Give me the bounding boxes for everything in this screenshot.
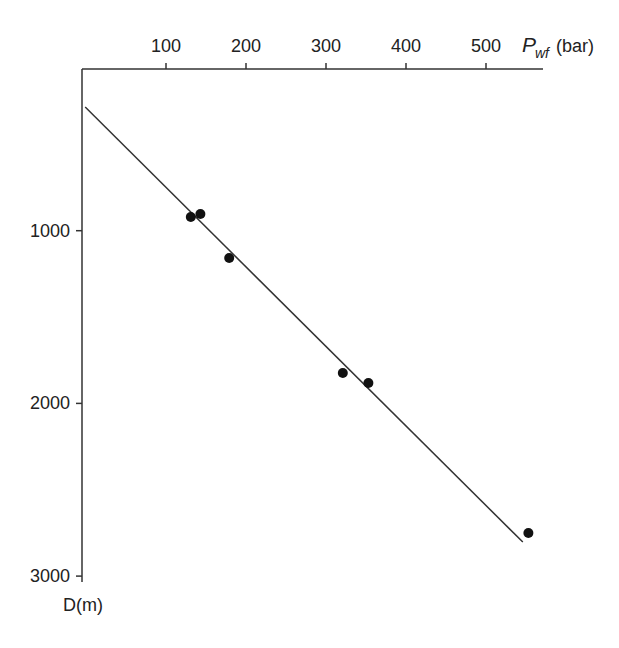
y-tick-label: 1000	[30, 221, 70, 241]
data-point	[363, 378, 373, 388]
data-point	[195, 209, 205, 219]
data-point	[338, 368, 348, 378]
data-point	[523, 528, 533, 538]
data-point	[186, 212, 196, 222]
svg-text:P: P	[522, 33, 536, 56]
fit-line-segment	[85, 107, 523, 542]
y-axis-label: D(m)	[63, 595, 103, 615]
pressure-depth-chart: 100200300400500 100020003000 P wf (bar) …	[0, 0, 619, 648]
x-tick-label: 500	[471, 36, 501, 56]
y-tick-label: 2000	[30, 393, 70, 413]
axes	[82, 69, 543, 582]
x-tick-label: 300	[311, 36, 341, 56]
x-axis-ticks: 100200300400500	[151, 36, 501, 69]
x-tick-label: 400	[391, 36, 421, 56]
data-point	[224, 253, 234, 263]
x-tick-label: 100	[151, 36, 181, 56]
y-tick-label: 3000	[30, 566, 70, 586]
y-axis-ticks: 100020003000	[30, 221, 82, 586]
x-tick-label: 200	[231, 36, 261, 56]
svg-text:D(m): D(m)	[63, 595, 103, 615]
svg-text:wf: wf	[535, 45, 551, 61]
x-axis-label: P wf (bar)	[522, 33, 594, 61]
svg-text:(bar): (bar)	[556, 36, 594, 56]
fit-line	[85, 107, 523, 542]
